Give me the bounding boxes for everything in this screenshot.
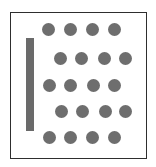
dot-r2-c3 bbox=[98, 52, 111, 65]
dot-r1-c1 bbox=[42, 23, 55, 36]
dot-r2-c2 bbox=[75, 52, 88, 65]
dot-r3-c1 bbox=[43, 79, 56, 92]
dot-r3-c4 bbox=[108, 79, 121, 92]
dot-r5-c3 bbox=[86, 131, 99, 144]
dot-r1-c4 bbox=[108, 23, 121, 36]
dot-r3-c2 bbox=[64, 79, 77, 92]
dot-r4-c2 bbox=[76, 105, 89, 118]
vertical-bar bbox=[26, 38, 34, 131]
dot-r5-c2 bbox=[64, 131, 77, 144]
dot-r1-c2 bbox=[64, 23, 77, 36]
dot-r4-c1 bbox=[55, 105, 68, 118]
dot-r4-c3 bbox=[99, 105, 112, 118]
dot-r5-c4 bbox=[108, 131, 121, 144]
dot-r3-c3 bbox=[87, 79, 100, 92]
dot-r5-c1 bbox=[43, 131, 56, 144]
dot-r2-c4 bbox=[119, 52, 132, 65]
dot-r2-c1 bbox=[54, 52, 67, 65]
dot-r4-c4 bbox=[119, 105, 132, 118]
dot-r1-c3 bbox=[86, 23, 99, 36]
